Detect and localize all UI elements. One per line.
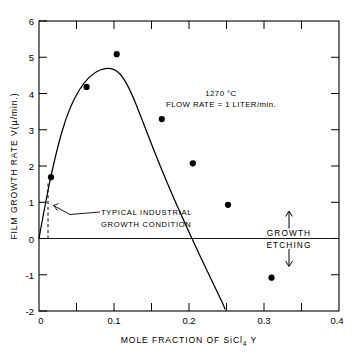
x-axis-title: MOLE FRACTION OF SiCl4 Y <box>121 335 257 347</box>
label-etching-region: ETCHING <box>266 240 311 250</box>
data-point <box>225 202 231 208</box>
data-point <box>268 275 274 281</box>
y-tick-label: 0 <box>29 234 34 245</box>
annotation-flow-rate: FLOW RATE = 1 LITER/min. <box>166 100 276 109</box>
y-tick-label: 2 <box>29 161 34 172</box>
chart-canvas: 6 5 4 3 2 1 0 -1 -2 0 0.1 0.2 0.3 0.4 <box>0 0 356 355</box>
x-axis-title-tail: Y <box>251 335 258 345</box>
y-axis-ticks-left <box>39 21 47 311</box>
x-tick-labels: 0 0.1 0.2 0.3 0.4 <box>38 315 343 326</box>
data-point <box>114 51 120 57</box>
data-point <box>190 160 196 166</box>
label-growth-region: GROWTH <box>267 228 311 238</box>
x-tick-label: 0.1 <box>107 315 120 326</box>
y-axis-ticks-right <box>331 57 339 275</box>
y-tick-label: 1 <box>29 197 34 208</box>
data-point <box>84 84 90 90</box>
x-axis-ticks-bottom <box>77 303 302 311</box>
data-point <box>48 174 54 180</box>
x-tick-label: 0.2 <box>182 315 195 326</box>
y-axis-title-post: /min.) <box>9 92 19 119</box>
annotation-industrial-line1: TYPICAL INDUSTRIAL <box>101 208 192 217</box>
y-tick-label: 5 <box>29 52 34 63</box>
growth-arrow-icon <box>286 211 293 229</box>
x-axis-title-main: MOLE FRACTION OF SiCl <box>121 335 243 345</box>
x-tick-label: 0 <box>38 315 43 326</box>
y-tick-label: 4 <box>29 89 34 100</box>
y-tick-label: -2 <box>26 306 34 317</box>
x-tick-label: 0.4 <box>330 315 343 326</box>
x-tick-label: 0.3 <box>257 315 270 326</box>
y-tick-labels: 6 5 4 3 2 1 0 -1 -2 <box>26 16 34 317</box>
y-tick-label: 6 <box>29 16 34 27</box>
etching-arrow-icon <box>286 249 293 267</box>
y-axis-title-main: FILM GROWTH RATE V( <box>9 126 19 240</box>
plot-frame <box>39 21 339 311</box>
chart-figure: 6 5 4 3 2 1 0 -1 -2 0 0.1 0.2 0.3 0.4 <box>0 0 356 355</box>
y-tick-label: -1 <box>26 270 34 281</box>
y-tick-label: 3 <box>29 125 34 136</box>
annotation-temperature: 1270 °C <box>205 89 236 98</box>
annotation-leader-line <box>54 206 101 215</box>
data-point <box>159 116 165 122</box>
annotation-industrial-line2: GROWTH CONDITION <box>101 220 192 229</box>
y-axis-title: FILM GROWTH RATE V(μ/min.) <box>9 92 19 239</box>
x-axis-ticks-top <box>77 21 302 29</box>
